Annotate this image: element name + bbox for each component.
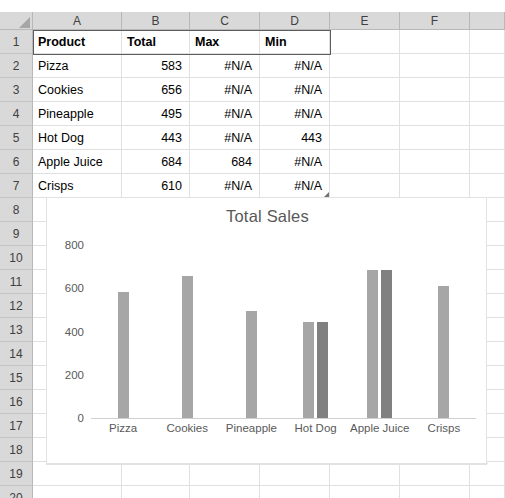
cell-b7[interactable]: 610 [122,174,190,198]
cell-f6[interactable] [400,150,470,174]
cell-a20[interactable] [33,486,122,498]
cell-g20[interactable] [470,486,505,498]
cell-b6[interactable]: 684 [122,150,190,174]
chart-bar-group[interactable] [348,245,412,418]
cell-b19[interactable] [122,462,190,486]
cell-f7[interactable] [400,174,470,198]
row-header-7[interactable]: 7 [0,174,33,198]
cell-d1[interactable]: Min [260,30,330,54]
cell-a6[interactable]: Apple Juice [33,150,122,174]
cell-d20[interactable] [260,486,330,498]
cell-f1[interactable] [400,30,470,54]
chart-bar-max[interactable] [381,270,392,418]
row-header-17[interactable]: 17 [0,414,33,438]
embedded-chart[interactable]: Total Sales 0200400600800 PizzaCookiesPi… [46,197,487,465]
cell-c6[interactable]: 684 [190,150,260,174]
cell-g1[interactable] [470,30,505,54]
cell-f3[interactable] [400,78,470,102]
cell-b1[interactable]: Total [122,30,190,54]
chart-bar-total[interactable] [182,276,193,418]
cell-e20[interactable] [330,486,400,498]
chart-bar-group[interactable] [284,245,348,418]
row-header-16[interactable]: 16 [0,390,33,414]
row-header-8[interactable]: 8 [0,198,33,222]
chart-bar-total[interactable] [438,286,449,418]
chart-bar-group[interactable] [412,245,476,418]
cell-e4[interactable] [330,102,400,126]
column-header-b[interactable]: B [122,12,190,30]
cell-b4[interactable]: 495 [122,102,190,126]
row-header-20[interactable]: 20 [0,486,33,498]
row-header-12[interactable]: 12 [0,294,33,318]
cell-b2[interactable]: 583 [122,54,190,78]
cell-f5[interactable] [400,126,470,150]
chart-bar-total[interactable] [367,270,378,418]
cell-f20[interactable] [400,486,470,498]
cell-c4[interactable]: #N/A [190,102,260,126]
cell-a3[interactable]: Cookies [33,78,122,102]
select-all-corner[interactable] [0,12,33,30]
row-header-4[interactable]: 4 [0,102,33,126]
cell-d7[interactable]: #N/A [260,174,330,198]
cell-a4[interactable]: Pineapple [33,102,122,126]
cell-a2[interactable]: Pizza [33,54,122,78]
cell-g7[interactable] [470,174,505,198]
row-header-2[interactable]: 2 [0,54,33,78]
cell-c2[interactable]: #N/A [190,54,260,78]
cell-f19[interactable] [400,462,470,486]
row-header-19[interactable]: 19 [0,462,33,486]
row-header-1[interactable]: 1 [0,30,33,54]
column-header-e[interactable]: E [330,12,400,30]
cell-c7[interactable]: #N/A [190,174,260,198]
chart-bar-group[interactable] [155,245,219,418]
row-header-3[interactable]: 3 [0,78,33,102]
cell-c20[interactable] [190,486,260,498]
cell-g6[interactable] [470,150,505,174]
cell-g4[interactable] [470,102,505,126]
chart-bar-group[interactable] [219,245,283,418]
cell-g19[interactable] [470,462,505,486]
row-header-14[interactable]: 14 [0,342,33,366]
row-header-15[interactable]: 15 [0,366,33,390]
cell-b3[interactable]: 656 [122,78,190,102]
cell-d4[interactable]: #N/A [260,102,330,126]
chart-bar-group[interactable] [91,245,155,418]
chart-bar-min[interactable] [317,322,328,418]
cell-f2[interactable] [400,54,470,78]
cell-d3[interactable]: #N/A [260,78,330,102]
column-header-d[interactable]: D [260,12,330,30]
chart-bar-total[interactable] [118,292,129,418]
column-header-f[interactable]: F [400,12,470,30]
cell-a1[interactable]: Product [33,30,122,54]
cell-e5[interactable] [330,126,400,150]
chart-bar-total[interactable] [246,311,257,418]
cell-b20[interactable] [122,486,190,498]
chart-bar-total[interactable] [303,322,314,418]
cell-a5[interactable]: Hot Dog [33,126,122,150]
cell-c3[interactable]: #N/A [190,78,260,102]
cell-c1[interactable]: Max [190,30,260,54]
cell-d19[interactable] [260,462,330,486]
cell-g2[interactable] [470,54,505,78]
row-header-9[interactable]: 9 [0,222,33,246]
cell-b5[interactable]: 443 [122,126,190,150]
cell-g3[interactable] [470,78,505,102]
row-header-18[interactable]: 18 [0,438,33,462]
cell-e19[interactable] [330,462,400,486]
row-header-11[interactable]: 11 [0,270,33,294]
cell-e2[interactable] [330,54,400,78]
row-header-5[interactable]: 5 [0,126,33,150]
cell-g5[interactable] [470,126,505,150]
cell-d2[interactable]: #N/A [260,54,330,78]
cell-e6[interactable] [330,150,400,174]
cell-e3[interactable] [330,78,400,102]
cell-c19[interactable] [190,462,260,486]
row-header-13[interactable]: 13 [0,318,33,342]
row-header-10[interactable]: 10 [0,246,33,270]
cell-c5[interactable]: #N/A [190,126,260,150]
column-header-g-partial[interactable] [470,12,505,30]
cell-d5[interactable]: 443 [260,126,330,150]
column-header-a[interactable]: A [33,12,122,30]
column-header-c[interactable]: C [190,12,260,30]
cell-a7[interactable]: Crisps [33,174,122,198]
